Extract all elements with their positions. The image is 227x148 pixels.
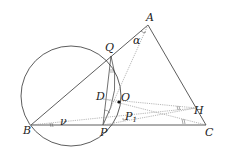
label-nu: ν [60,115,67,128]
label-o: O [121,91,130,104]
label-p: P [99,126,108,139]
label-p1: P1 [124,110,137,124]
angle-mark-q [110,70,114,72]
label-c: C [205,126,214,139]
label-alpha: α [133,34,141,47]
label-b: B [22,124,31,137]
angle-mark-c [182,119,185,124]
label-q: Q [105,41,114,54]
segment-oc-dotted [100,98,206,125]
diagram-canvas: A Q α D O H P1 ν B P C [0,0,227,148]
right-angle-mark-p1 [122,119,124,121]
segment-dh-dotted [103,99,196,108]
label-d: D [95,90,105,103]
label-a: A [145,11,154,24]
geometry-diagram: A Q α D O H P1 ν B P C [0,0,227,148]
label-h: H [193,104,204,117]
